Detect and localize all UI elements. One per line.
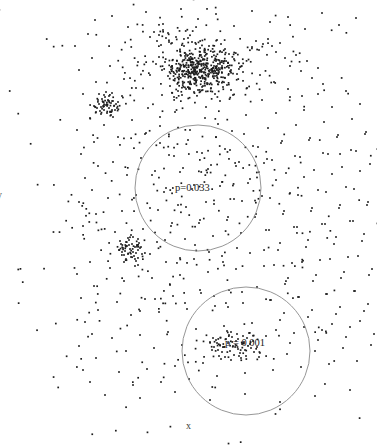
data-point [350,149,352,151]
data-point [95,106,97,108]
data-point [228,82,230,84]
data-point [205,74,207,76]
data-point [85,208,87,210]
data-point [336,136,338,138]
data-point [292,297,294,299]
data-point [317,189,319,191]
data-point [275,413,277,415]
data-point [303,176,305,178]
data-point [222,81,224,83]
data-point [219,145,221,147]
data-point [201,71,203,73]
data-point [277,249,279,251]
data-point [106,278,108,280]
data-point [195,26,197,28]
data-point [176,97,178,99]
data-point [236,247,238,249]
data-point [199,91,201,93]
data-point [217,84,219,86]
data-point [240,357,242,359]
data-point [193,258,195,260]
data-point [235,52,237,54]
data-point [227,62,229,64]
data-point [81,205,83,207]
data-point [291,262,293,264]
data-point [171,65,173,67]
data-point [331,29,333,31]
data-point [269,299,271,301]
data-point [133,147,135,149]
data-point [214,93,216,95]
data-point [186,67,188,69]
data-point [87,336,89,338]
data-point [359,170,361,172]
data-point [227,216,229,218]
data-point [255,40,257,42]
data-point [236,73,238,75]
data-point [333,243,335,245]
data-point [292,36,294,38]
data-point [222,88,224,90]
data-point [199,159,201,161]
data-point [89,104,91,106]
data-point [217,78,219,80]
data-point [178,76,180,78]
data-point [149,207,151,209]
data-point [242,71,244,73]
data-point [331,106,333,108]
data-point [219,100,221,102]
data-point [130,46,132,48]
data-point [182,59,184,61]
data-point [204,66,206,68]
data-point [137,238,139,240]
data-point [297,187,299,189]
data-point [216,342,218,344]
data-point [210,72,212,74]
data-point [142,256,144,258]
data-point [217,349,219,351]
data-point [174,78,176,80]
data-point [53,46,55,48]
data-point [117,246,119,248]
data-point [112,161,114,163]
data-point [43,268,45,270]
data-point [241,291,243,293]
data-point [159,125,161,127]
data-point [187,42,189,44]
data-point [195,361,197,363]
data-point [224,148,226,150]
data-point [347,256,349,258]
data-point [176,39,178,41]
data-point [124,42,126,44]
data-point [249,252,251,254]
data-point [65,220,67,222]
data-point [142,258,144,260]
data-point [257,146,259,148]
data-point [210,50,212,52]
data-point [136,246,138,248]
data-point [212,337,214,339]
data-point [158,56,160,58]
data-point [180,100,182,102]
data-point [83,238,85,240]
data-point [341,77,343,79]
data-point [175,89,177,91]
data-point [167,146,169,148]
data-point [156,40,158,42]
data-point [178,95,180,97]
data-point [365,131,367,133]
data-point [142,31,144,33]
data-point [224,60,226,62]
data-point [289,100,291,102]
data-point [203,341,205,343]
data-point [275,329,277,331]
data-point [149,36,151,38]
data-point [319,139,321,141]
data-point [129,252,131,254]
data-point [221,65,223,67]
data-point [180,8,182,10]
data-point [141,361,143,363]
data-point [297,194,299,196]
data-point [251,10,253,12]
data-point [131,119,133,121]
